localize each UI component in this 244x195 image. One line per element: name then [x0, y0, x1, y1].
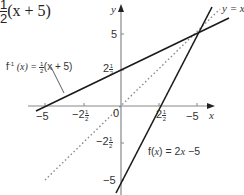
- tick-fraction: 12: [162, 109, 166, 122]
- graph-svg: [0, 0, 244, 195]
- origin-label: 0: [113, 108, 119, 119]
- x-tick-label: −5: [186, 111, 199, 122]
- x-axis-label: x: [209, 110, 214, 121]
- inverse-function-label: f-1 (x) = 12(x + 5): [6, 59, 72, 74]
- tick-whole: −2: [72, 108, 85, 120]
- tick-fraction: 12: [109, 63, 113, 76]
- label-arg: (x) =: [14, 61, 39, 72]
- frac-denominator: 2: [109, 143, 113, 149]
- function-label: f(x) = 2x −5: [148, 146, 200, 157]
- graph-diagram: 1 2 (x + 5) y x 0 −5 −212 212 −5 5 212 −…: [0, 0, 244, 195]
- header-fragment: 1 2 (x + 5): [0, 0, 51, 25]
- frac-denominator: 2: [109, 70, 113, 76]
- label-end: −5: [185, 145, 200, 157]
- frac-denominator: 2: [162, 116, 166, 122]
- frac-numerator: 1: [109, 63, 113, 70]
- tick-fraction: 12: [109, 136, 113, 149]
- frac-denominator: 2: [85, 116, 89, 122]
- x-tick-label: 212: [156, 109, 166, 122]
- header-expression: (x + 5): [7, 2, 51, 19]
- y-axis-arrow-icon: [118, 4, 124, 12]
- label-rest: (x + 5): [44, 61, 73, 72]
- frac-numerator: 1: [109, 136, 113, 143]
- tick-whole: −2: [96, 135, 109, 147]
- identity-label: y = x: [222, 3, 244, 14]
- x-tick-label: −5: [36, 111, 49, 122]
- y-axis-label: y: [111, 4, 116, 15]
- frac-numerator: 1: [162, 109, 166, 116]
- y-tick-label: −212: [96, 136, 113, 149]
- x-tick-label: −212: [72, 109, 89, 122]
- frac-numerator: 1: [85, 109, 89, 116]
- label-post: ) = 2: [159, 145, 180, 157]
- function-line: [116, 7, 212, 193]
- y-tick-label: 212: [103, 63, 113, 76]
- y-tick-label: −5: [103, 175, 116, 186]
- y-tick-label: 5: [111, 29, 117, 40]
- tick-fraction: 12: [85, 109, 89, 122]
